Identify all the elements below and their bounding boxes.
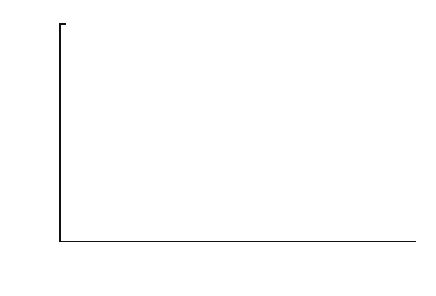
bar-chart: [0, 0, 436, 296]
plot-area: [0, 0, 436, 241]
